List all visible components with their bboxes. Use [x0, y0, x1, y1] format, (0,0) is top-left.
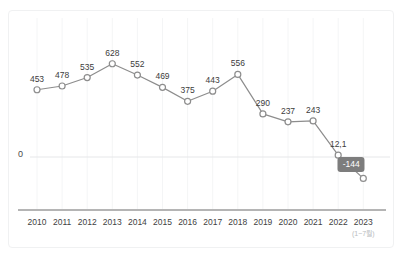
data-point-marker[interactable]	[285, 119, 291, 125]
data-point-marker[interactable]	[185, 98, 191, 104]
data-point-label: 552	[130, 59, 144, 69]
data-point-label: 453	[30, 74, 44, 84]
x-axis-period-note: (1~7월)	[352, 229, 375, 238]
x-axis-year-label: 2017	[203, 217, 222, 228]
data-point-label: 12,1	[330, 139, 347, 149]
x-axis-year-label: 2012	[78, 217, 97, 228]
x-axis-year-label: 2013	[103, 217, 122, 228]
data-point-label: 628	[105, 48, 119, 58]
x-axis-year-label: 2011	[53, 217, 71, 228]
data-point-label: 478	[55, 70, 69, 80]
data-point-marker[interactable]	[360, 175, 366, 181]
data-point-label: 556	[231, 58, 245, 68]
x-axis-year-label: 2014	[128, 217, 147, 228]
x-axis-year-label: 2016	[178, 217, 197, 228]
y-axis-zero-label: 0	[18, 149, 23, 160]
data-point-marker[interactable]	[59, 83, 65, 89]
data-point-label: 290	[256, 98, 270, 108]
x-axis-year-label: 2022	[329, 217, 348, 228]
data-point-marker[interactable]	[260, 111, 266, 117]
data-point-label: 469	[155, 71, 169, 81]
data-point-marker[interactable]	[109, 61, 115, 67]
data-point-label: 237	[281, 106, 295, 116]
x-axis-year-label: 2010	[28, 217, 47, 228]
data-point-marker[interactable]	[310, 118, 316, 124]
data-point-marker[interactable]	[235, 71, 241, 77]
data-point-label: 535	[80, 62, 94, 72]
data-point-marker[interactable]	[34, 87, 40, 93]
data-point-marker[interactable]	[210, 88, 216, 94]
data-point-label: 243	[306, 105, 320, 115]
x-axis-year-label: 2020	[279, 217, 298, 228]
x-axis-year-label: 2023	[354, 217, 373, 228]
data-point-label: 443	[206, 75, 220, 85]
chart-card: 0 45347853562855246937544355629023724312…	[0, 0, 403, 259]
data-point-label: 375	[181, 85, 195, 95]
x-axis-year-label: 2018	[228, 217, 247, 228]
highlighted-value-badge: -144	[338, 157, 365, 172]
data-point-marker[interactable]	[160, 84, 166, 90]
data-point-marker[interactable]	[84, 75, 90, 81]
x-axis-year-label: 2015	[153, 217, 172, 228]
x-axis-year-label: 2019	[253, 217, 272, 228]
data-point-marker[interactable]	[134, 72, 140, 78]
x-axis-year-label: 2021	[304, 217, 323, 228]
